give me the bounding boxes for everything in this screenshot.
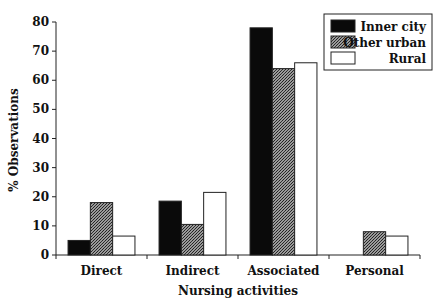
bar-rural-direct [113,236,135,255]
y-tick-label: 50 [32,102,49,116]
bar-inner-city-direct [68,240,90,255]
bar-inner-city-associated [250,28,272,255]
y-tick-label: 60 [32,73,49,87]
y-tick-label: 0 [41,248,49,262]
legend-label: Inner city [360,20,427,34]
bar-other-urban-associated [272,69,294,255]
legend-swatch-inner-city [331,20,355,32]
y-axis-title: % Observations [7,88,21,192]
x-axis-title: Nursing activities [178,284,298,298]
bar-chart: 01020304050607080 DirectIndirectAssociat… [0,0,439,306]
y-tick-label: 30 [32,161,49,175]
y-tick-label: 40 [32,132,49,146]
y-tick-label: 70 [32,44,49,58]
x-category-label: Indirect [165,264,220,278]
legend: Inner cityOther urbanRural [324,14,432,70]
legend-swatch-rural [331,52,355,64]
bar-other-urban-indirect [181,224,203,255]
x-category-label: Personal [345,264,404,278]
legend-label: Rural [389,52,427,66]
bar-inner-city-indirect [159,201,181,255]
y-tick-label: 80 [32,15,49,29]
x-category-label: Direct [81,264,123,278]
y-tick-label: 10 [32,219,49,233]
bar-other-urban-direct [90,203,112,255]
y-tick-label: 20 [32,190,49,204]
y-axis: 01020304050607080 [32,15,56,262]
legend-label: Other urban [343,36,426,50]
x-category-label: Associated [246,264,320,278]
bar-rural-personal [386,236,408,255]
bar-rural-associated [295,63,317,255]
x-axis: DirectIndirectAssociatedPersonal [56,255,420,278]
bar-rural-indirect [204,192,226,255]
bar-other-urban-personal [363,232,385,255]
